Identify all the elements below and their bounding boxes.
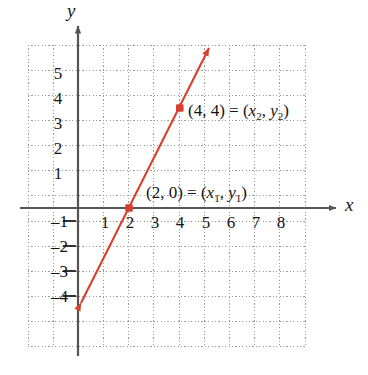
x-axis-label: x: [345, 194, 353, 216]
annotation-var-x: x: [249, 101, 257, 120]
y-tick-label: 4: [48, 89, 68, 109]
y-axis-label: y: [67, 0, 75, 22]
y-tick-label: 1: [48, 164, 68, 184]
x-tick-label: 3: [145, 213, 165, 233]
annotation-equals: =: [187, 183, 197, 202]
x-tick-label: 4: [170, 213, 190, 233]
annotation-point-1: (2, 0) = (x1, y1): [146, 183, 247, 204]
annotation-coords: (2, 0): [146, 183, 183, 202]
annotation-var-y: y: [270, 101, 278, 120]
y-tick-label: –1: [38, 212, 68, 232]
y-tick-label: 2: [48, 139, 68, 159]
y-tick-label: –2: [38, 237, 68, 257]
y-tick-label: 3: [48, 114, 68, 134]
annotation-coords: (4, 4): [188, 101, 225, 120]
annotation-comma: ,: [262, 101, 271, 120]
y-axis-tick-marks: [63, 221, 76, 296]
coordinate-plane-figure: y x 1 2 3 4 5 6 7 8 5 4 3 2 1 –1 –2 –3 –…: [0, 0, 368, 375]
x-tick-label: 1: [95, 213, 115, 233]
x-tick-label: 7: [246, 213, 266, 233]
annotation-var-y: y: [228, 183, 236, 202]
annotation-equals: =: [229, 101, 239, 120]
data-point-2-0: [125, 204, 133, 212]
annotation-comma: ,: [220, 183, 229, 202]
y-tick-label: 5: [48, 64, 68, 84]
annotation-paren-close: ): [283, 101, 289, 120]
y-tick-label: –3: [38, 262, 68, 282]
data-point-4-4: [176, 104, 184, 112]
x-tick-label: 8: [271, 213, 291, 233]
y-tick-label: –4: [38, 287, 68, 307]
function-line: [81, 48, 209, 303]
annotation-var-x: x: [207, 183, 215, 202]
x-tick-label: 2: [120, 213, 140, 233]
x-tick-label: 5: [196, 213, 216, 233]
annotation-paren-close: ): [241, 183, 247, 202]
annotation-point-2: (4, 4) = (x2, y2): [188, 101, 289, 122]
x-tick-label: 6: [221, 213, 241, 233]
